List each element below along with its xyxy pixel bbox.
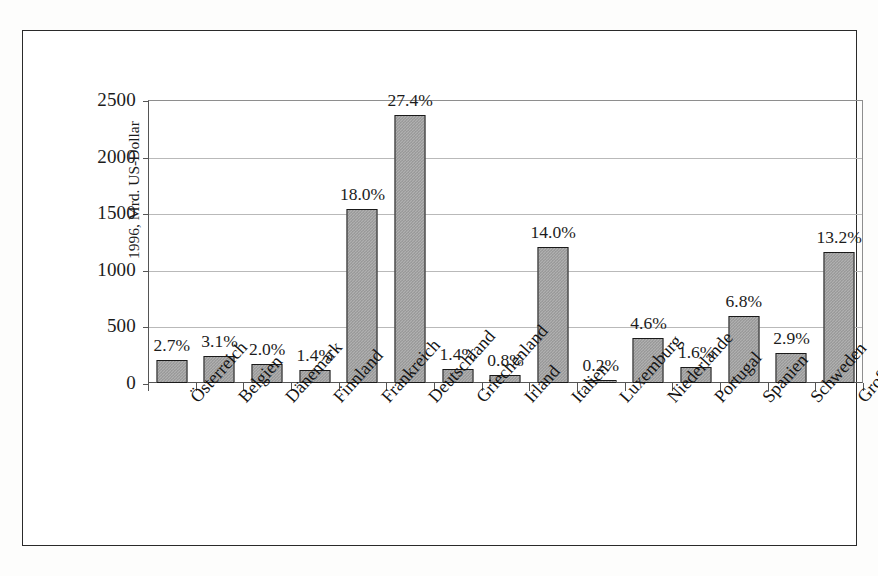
bar-group: 0.2% xyxy=(577,100,625,383)
x-axis-category-labels: ÖsterreichBelgienDänemarkFinnlandFrankre… xyxy=(148,393,863,543)
y-tick-label: 0 xyxy=(126,372,136,394)
x-category-label: Irland xyxy=(520,393,536,407)
chart-figure: 1996, Mrd. US-Dollar 0500100015002000250… xyxy=(0,0,878,576)
y-tick-label: 2000 xyxy=(97,146,136,168)
bar-series: 2.7%3.1%2.0%1.4%18.0%27.4%1.4%0.8%14.0%0… xyxy=(148,100,863,383)
x-category-label: Dänemark xyxy=(281,393,297,407)
y-tick-label: 2500 xyxy=(97,89,136,111)
bar-group: 18.0% xyxy=(339,100,387,383)
x-category-label: Großbritannien xyxy=(853,393,869,407)
y-tick-label: 1500 xyxy=(97,202,136,224)
bar-value-label: 2.9% xyxy=(773,328,809,349)
x-category-label: Portugal xyxy=(710,393,726,407)
bar-group: 2.7% xyxy=(148,100,196,383)
x-category-label: Spanien xyxy=(758,393,774,407)
bar[interactable] xyxy=(156,360,187,383)
bar-value-label: 27.4% xyxy=(388,90,433,111)
x-tick-mark xyxy=(148,383,149,391)
x-category-label: Schweden xyxy=(806,393,822,407)
y-axis-tick-labels: 05001000150020002500 xyxy=(78,100,142,383)
y-tick-label: 1000 xyxy=(97,259,136,281)
bar-group: 2.0% xyxy=(243,100,291,383)
x-category-label: Italien xyxy=(567,393,583,407)
x-category-label: Belgien xyxy=(234,393,250,407)
y-tick-label: 500 xyxy=(107,315,136,337)
bar-value-label: 14.0% xyxy=(531,222,576,243)
x-category-label: Niederlande xyxy=(663,393,679,407)
x-category-label: Deutschland xyxy=(424,393,440,407)
x-category-label: Österreich xyxy=(186,393,202,407)
bar[interactable] xyxy=(538,247,569,383)
x-category-label: Griechenland xyxy=(472,393,488,407)
x-category-label: Finnland xyxy=(329,393,345,407)
x-category-label: Frankreich xyxy=(377,393,393,407)
bar-group: 2.9% xyxy=(768,100,816,383)
bar-value-label: 18.0% xyxy=(340,184,385,205)
x-category-label: Luxemburg xyxy=(615,393,631,407)
bar-value-label: 6.8% xyxy=(726,291,762,312)
bar-value-label: 13.2% xyxy=(817,227,862,248)
bar-value-label: 4.6% xyxy=(630,313,666,334)
bar-value-label: 2.7% xyxy=(154,335,190,356)
figure-outer-frame: 1996, Mrd. US-Dollar 0500100015002000250… xyxy=(22,30,857,546)
